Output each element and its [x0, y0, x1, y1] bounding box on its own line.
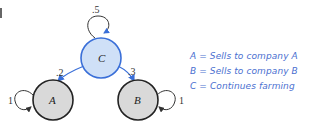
- node-a-label: A: [48, 94, 56, 106]
- edge-c-to-c: [88, 16, 109, 38]
- edge-label-b-b: 1: [179, 95, 184, 106]
- legend-item-c: C = Continues farming: [190, 79, 298, 94]
- edge-label-a-a: 1: [8, 95, 13, 106]
- legend: A = Sells to company A B = Sells to comp…: [190, 49, 298, 94]
- edge-b-to-b: [157, 91, 175, 110]
- edge-label-c-a: .2: [56, 67, 64, 78]
- edge-label-c-b: .3: [128, 66, 136, 77]
- node-b-label: B: [134, 94, 141, 106]
- edge-a-to-a: [15, 91, 33, 110]
- legend-item-b: B = Sells to company B: [190, 64, 298, 79]
- edge-label-c-c: .5: [92, 4, 100, 15]
- node-c-label: C: [98, 52, 106, 64]
- legend-item-a: A = Sells to company A: [190, 49, 298, 64]
